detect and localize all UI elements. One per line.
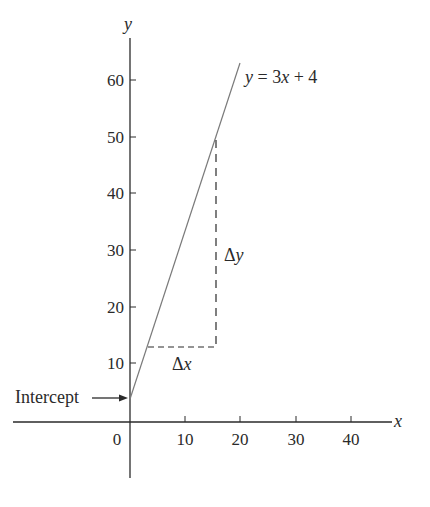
x-axis-label: x: [393, 411, 402, 431]
x-tick-label: 40: [343, 430, 360, 449]
equation-x: x: [280, 67, 289, 87]
line-chart: y x 60 50 40 30 20 10 0 10 20 30 40 y = …: [0, 0, 430, 507]
x-tick-label: 20: [232, 430, 249, 449]
equation-eq: = 3: [253, 67, 281, 87]
y-tick-label: 10: [107, 354, 124, 373]
intercept-arrow-icon: [92, 395, 128, 402]
delta-x-label: Δx: [172, 354, 192, 374]
origin-label: 0: [113, 430, 122, 449]
delta-symbol: Δ: [172, 354, 184, 374]
delta-y-var: y: [234, 245, 244, 265]
y-tick-label: 20: [107, 298, 124, 317]
equation-y: y: [243, 67, 253, 87]
y-tick-label: 40: [107, 184, 124, 203]
intercept-label: Intercept: [15, 387, 79, 407]
equation-label: y = 3x + 4: [243, 67, 317, 87]
y-ticks: [130, 80, 136, 363]
y-axis-label: y: [122, 14, 132, 34]
y-tick-label: 30: [107, 241, 124, 260]
x-tick-label: 10: [177, 430, 194, 449]
delta-symbol: Δ: [224, 245, 236, 265]
delta-x-var: x: [183, 354, 192, 374]
y-tick-label: 60: [107, 71, 124, 90]
y-tick-labels: 60 50 40 30 20 10: [107, 71, 124, 373]
equation-rest: + 4: [289, 67, 317, 87]
x-tick-label: 30: [288, 430, 305, 449]
x-ticks: [185, 416, 351, 422]
delta-y-label: Δy: [224, 245, 244, 265]
x-tick-labels: 0 10 20 30 40: [113, 430, 360, 449]
series-line: [130, 63, 240, 399]
y-tick-label: 50: [107, 128, 124, 147]
